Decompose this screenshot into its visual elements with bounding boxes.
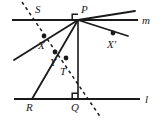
- point-dot-X: [42, 34, 47, 39]
- figure-canvas: [0, 0, 161, 120]
- point-dot-X-prime: [111, 31, 116, 36]
- point-dot-T: [64, 56, 69, 61]
- ray-P-through-X-prime: [78, 20, 128, 36]
- label-X-prime: X': [107, 39, 116, 50]
- ray-P-through-X: [14, 20, 78, 60]
- geometry-figure: S P m X X' Y T R Q l: [0, 0, 161, 120]
- label-P: P: [81, 4, 88, 15]
- label-Y: Y: [50, 57, 56, 68]
- label-l: l: [145, 94, 148, 105]
- label-S: S: [35, 4, 41, 15]
- label-Q: Q: [71, 102, 79, 113]
- label-T: T: [60, 66, 66, 77]
- label-R: R: [26, 102, 33, 113]
- label-X: X: [38, 40, 45, 51]
- point-dot-Y: [53, 50, 58, 55]
- label-m: m: [142, 15, 150, 26]
